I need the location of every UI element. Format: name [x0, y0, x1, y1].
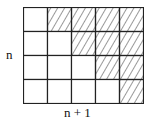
empty-cell	[24, 8, 48, 32]
hatched-cell	[96, 32, 120, 56]
hatched-cell	[72, 32, 96, 56]
empty-cell	[48, 80, 72, 104]
hatched-cell	[96, 56, 120, 80]
hatched-cell	[120, 8, 144, 32]
empty-cell	[72, 80, 96, 104]
empty-cell	[24, 32, 48, 56]
empty-cell	[24, 80, 48, 104]
empty-cell	[96, 80, 120, 104]
empty-cell	[72, 56, 96, 80]
empty-cell	[24, 56, 48, 80]
hatched-cell	[48, 8, 72, 32]
row-count-label: n	[6, 48, 13, 61]
hatched-cell	[120, 80, 144, 104]
hatched-cell	[120, 56, 144, 80]
hatched-cell	[120, 32, 144, 56]
hatched-cell	[72, 8, 96, 32]
column-count-label: n + 1	[64, 106, 91, 119]
hatched-cell	[96, 8, 120, 32]
empty-cell	[48, 32, 72, 56]
staircase-grid	[23, 7, 144, 104]
empty-cell	[48, 56, 72, 80]
